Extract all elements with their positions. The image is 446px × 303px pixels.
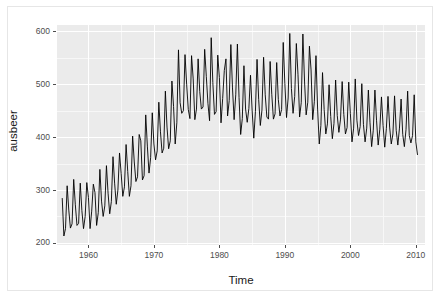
y-axis-tick-mark (53, 137, 56, 138)
x-axis-tick-label: 2010 (396, 250, 436, 260)
x-axis-tick-mark (219, 245, 220, 248)
x-axis-tick-label: 1980 (199, 250, 239, 260)
plot-area: 200300400500600 196019701980199020002010… (0, 0, 446, 303)
x-axis-tick-mark (88, 245, 89, 248)
x-axis-tick-mark (154, 245, 155, 248)
x-axis-tick-mark (285, 245, 286, 248)
y-axis-title: ausbeer (7, 101, 19, 161)
y-axis-tick-mark (53, 84, 56, 85)
y-axis-tick-mark (53, 243, 56, 244)
y-axis-tick-label: 600 (24, 26, 50, 36)
y-axis-tick-mark (53, 31, 56, 32)
x-axis-tick-label: 1990 (265, 250, 305, 260)
y-axis-tick-label: 500 (24, 79, 50, 89)
x-axis-title: Time (57, 274, 425, 286)
y-axis-tick-label: 400 (24, 132, 50, 142)
x-axis-tick-mark (416, 245, 417, 248)
x-axis-tick-mark (350, 245, 351, 248)
chart-figure: 200300400500600 196019701980199020002010… (0, 0, 446, 303)
y-axis-tick-label: 200 (24, 237, 50, 247)
y-axis-tick-label: 300 (24, 185, 50, 195)
data-series-ausbeer (57, 25, 425, 245)
y-axis-tick-mark (53, 190, 56, 191)
x-axis-tick-label: 1970 (134, 250, 174, 260)
x-axis-tick-label: 2000 (330, 250, 370, 260)
plot-panel (57, 25, 425, 245)
x-axis-tick-label: 1960 (68, 250, 108, 260)
